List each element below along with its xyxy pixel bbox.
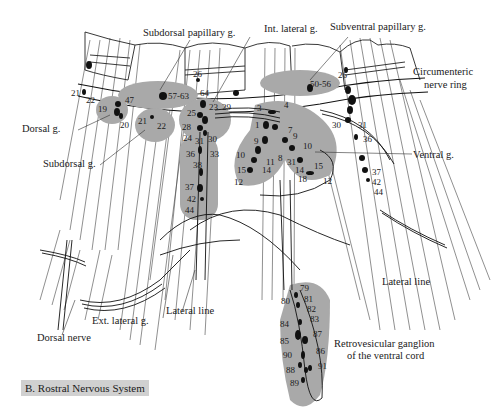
neuron-number: 21 bbox=[138, 117, 147, 126]
label-subdorsal-ganglion: Subdorsal g. bbox=[43, 159, 96, 170]
neuron-number: 10 bbox=[236, 151, 245, 160]
neuron-number: 31 bbox=[195, 137, 204, 146]
neuron-number: 86 bbox=[316, 347, 325, 356]
neuron-number: 81 bbox=[304, 295, 313, 304]
neuron-number: 4 bbox=[284, 101, 289, 110]
label-circumenteric-line1: Circumenteric bbox=[413, 67, 473, 78]
label-retrovesicular-line1: Retrovesicular ganglion bbox=[334, 339, 435, 350]
neuron-number: 50-56 bbox=[310, 80, 331, 89]
neuron-number: 37 bbox=[185, 183, 194, 192]
neuron-number: 21 bbox=[71, 89, 80, 98]
neuron-number: 30 bbox=[332, 121, 341, 130]
neuron-number: 26 bbox=[338, 71, 347, 80]
ventral-ganglion-region bbox=[234, 101, 336, 186]
neuron-number: 87 bbox=[313, 330, 322, 339]
neuron-number: 44 bbox=[374, 188, 383, 197]
neuron-number: 24 bbox=[183, 134, 192, 143]
label-circumenteric-line2: nerve ring bbox=[424, 80, 467, 91]
neuron-number: 47 bbox=[125, 96, 134, 105]
neuron-number: 26 bbox=[193, 70, 202, 79]
label-ventral-ganglion: Ventral g. bbox=[413, 150, 454, 161]
neuron-number: 7 bbox=[288, 126, 293, 135]
neuron-number: 12 bbox=[234, 178, 243, 187]
neuron-number: 1 bbox=[255, 121, 260, 130]
neuron-number: 57-63 bbox=[168, 92, 189, 101]
neuron-number: 37 bbox=[372, 168, 381, 177]
neuron-number: 15 bbox=[237, 166, 246, 175]
neuron-number: 14 bbox=[262, 166, 271, 175]
neuron-number: 9 bbox=[293, 132, 298, 141]
neuron-number: 18 bbox=[298, 175, 307, 184]
label-dorsal-ganglion: Dorsal g. bbox=[22, 124, 61, 135]
neuron-number: 42 bbox=[372, 178, 381, 187]
label-lateral-line-right: Lateral line bbox=[382, 277, 430, 288]
neuron-number: 90 bbox=[283, 351, 292, 360]
neuron-number: 85 bbox=[280, 337, 289, 346]
neuron-number: 12 bbox=[323, 177, 332, 186]
neuron-number: 38 bbox=[193, 161, 202, 170]
neuron-number: 8 bbox=[278, 154, 283, 163]
neuron-number: 22 bbox=[157, 122, 166, 131]
label-int-lateral-ganglion: Int. lateral g. bbox=[264, 24, 318, 35]
neuron-number: 84 bbox=[280, 320, 289, 329]
neuron-number: 19 bbox=[98, 105, 107, 114]
neuron-number: 29 bbox=[222, 103, 231, 112]
neuron-number: 91 bbox=[318, 362, 327, 371]
neuron-number: 10 bbox=[303, 142, 312, 151]
neuron-number: 36 bbox=[186, 150, 195, 159]
neuron-number: 64 bbox=[200, 89, 209, 98]
neuron-number: 80 bbox=[281, 297, 290, 306]
rostral-nervous-system-diagram: Subdorsal papillary g. Int. lateral g. S… bbox=[0, 0, 499, 416]
neuron-number: 89 bbox=[290, 379, 299, 388]
neuron-number: 3 bbox=[257, 104, 262, 113]
neuron-number: 44 bbox=[185, 206, 194, 215]
neuron-number: 31 bbox=[358, 121, 367, 130]
neuron-number: 83 bbox=[310, 315, 319, 324]
neuron-number: 23 bbox=[209, 103, 218, 112]
figure-caption: B. Rostral Nervous System bbox=[21, 380, 149, 396]
neuron-number: 20 bbox=[120, 121, 129, 130]
neuron-number: 15 bbox=[314, 162, 323, 171]
neuron-number: 88 bbox=[286, 366, 295, 375]
label-dorsal-nerve: Dorsal nerve bbox=[37, 333, 91, 344]
label-retrovesicular-line2: of the ventral cord bbox=[347, 351, 424, 362]
neuron-number: 9 bbox=[254, 137, 259, 146]
label-subventral-papillary-ganglion: Subventral papillary g. bbox=[330, 22, 426, 33]
label-ext-lateral-ganglion: Ext. lateral g. bbox=[92, 316, 149, 327]
neuron-number: 36 bbox=[363, 135, 372, 144]
neuron-number: 25 bbox=[187, 109, 196, 118]
label-subdorsal-papillary-ganglion: Subdorsal papillary g. bbox=[143, 28, 235, 39]
neuron-number: 22 bbox=[86, 96, 95, 105]
neuron-number: 42 bbox=[187, 195, 196, 204]
neuron-number: 30 bbox=[208, 135, 217, 144]
neuron-number: 28 bbox=[182, 123, 191, 132]
label-lateral-line-center: Lateral line bbox=[166, 306, 214, 317]
neuron-number: 33 bbox=[210, 150, 219, 159]
neuron-number: 82 bbox=[307, 305, 316, 314]
neuron-number: 79 bbox=[300, 284, 309, 293]
